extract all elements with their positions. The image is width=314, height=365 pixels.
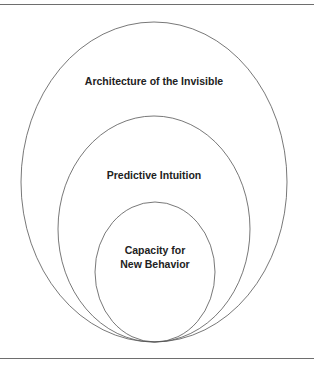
- nested-ellipse-diagram: Architecture of the Invisible Predictive…: [0, 0, 314, 365]
- inner-label-line-2: New Behavior: [120, 258, 189, 270]
- inner-ellipse: [95, 202, 215, 342]
- outer-ellipse: [21, 22, 287, 342]
- inner-label-line-1: Capacity for: [125, 244, 186, 256]
- middle-label: Predictive Intuition: [107, 169, 202, 181]
- outer-label: Architecture of the Invisible: [85, 75, 223, 87]
- middle-ellipse: [58, 116, 250, 342]
